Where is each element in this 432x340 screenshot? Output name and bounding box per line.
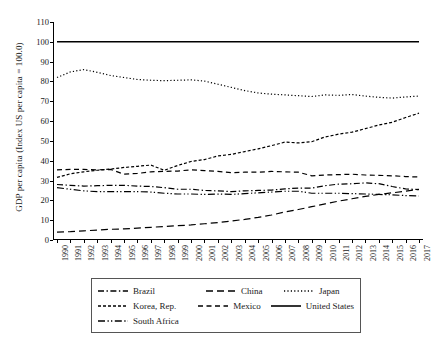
legend-label: South Africa	[133, 316, 179, 326]
x-tick-label: 2004	[248, 245, 257, 261]
x-tick-mark	[325, 240, 326, 243]
legend-label: Japan	[319, 286, 340, 296]
x-tick-label: 2003	[235, 245, 244, 261]
series-lines	[53, 22, 423, 240]
x-tick-mark	[272, 240, 273, 243]
x-tick-label: 1993	[101, 245, 110, 261]
legend-label: Mexico	[233, 301, 261, 311]
x-tick-label: 2013	[369, 245, 378, 261]
legend-swatch	[284, 287, 314, 295]
legend-item-united-states[interactable]: United States	[271, 301, 354, 311]
x-tick-label: 1998	[168, 245, 177, 261]
legend-row: South Africa	[98, 313, 354, 328]
x-tick-label: 1992	[87, 245, 96, 261]
x-tick-label: 2016	[409, 245, 418, 261]
x-tick-mark	[84, 240, 85, 243]
x-tick-mark	[191, 240, 192, 243]
x-tick-mark	[137, 240, 138, 243]
legend-item-south-africa[interactable]: South Africa	[98, 316, 206, 326]
y-tick-mark	[50, 240, 53, 241]
series-line	[57, 188, 419, 196]
x-tick-label: 1997	[154, 245, 163, 261]
x-tick-mark	[204, 240, 205, 243]
legend-label: Korea, Rep.	[133, 301, 176, 311]
x-tick-label: 2017	[423, 245, 432, 261]
plot-area: 0102030405060708090100110 19901991199219…	[53, 22, 423, 240]
x-tick-label: 1999	[181, 245, 190, 261]
x-tick-mark	[406, 240, 407, 243]
legend-item-mexico[interactable]: Mexico	[198, 301, 270, 311]
x-tick-label: 1996	[141, 245, 150, 261]
x-tick-label: 2011	[342, 245, 351, 261]
x-tick-mark	[231, 240, 232, 243]
legend-row: Korea, Rep.MexicoUnited States	[98, 298, 354, 313]
y-axis-title: GDP per capita (Index US per capita = 10…	[14, 22, 24, 232]
x-tick-label: 2012	[355, 245, 364, 261]
x-tick-mark	[392, 240, 393, 243]
x-tick-label: 2008	[302, 245, 311, 261]
x-tick-mark	[285, 240, 286, 243]
x-tick-label: 1995	[128, 245, 137, 261]
x-tick-mark	[312, 240, 313, 243]
legend-row: BrazilChinaJapan	[98, 283, 354, 298]
legend-swatch	[98, 302, 128, 310]
x-tick-label: 2002	[221, 245, 230, 261]
legend-swatch	[206, 287, 236, 295]
x-tick-label: 2014	[382, 245, 391, 261]
legend-item-japan[interactable]: Japan	[284, 286, 340, 296]
x-tick-mark	[218, 240, 219, 243]
legend-item-brazil[interactable]: Brazil	[98, 286, 206, 296]
x-tick-label: 2007	[288, 245, 297, 261]
x-tick-label: 2001	[208, 245, 217, 261]
legend-swatch	[98, 317, 128, 325]
x-tick-mark	[258, 240, 259, 243]
legend-item-china[interactable]: China	[206, 286, 284, 296]
series-line	[57, 113, 419, 177]
x-tick-label: 2009	[315, 245, 324, 261]
legend-label: China	[241, 286, 263, 296]
x-tick-mark	[245, 240, 246, 243]
x-tick-mark	[164, 240, 165, 243]
x-tick-mark	[151, 240, 152, 243]
x-tick-label: 1994	[114, 245, 123, 261]
x-tick-mark	[419, 240, 420, 243]
series-line	[57, 183, 419, 192]
x-tick-mark	[352, 240, 353, 243]
series-line	[57, 70, 419, 99]
x-tick-mark	[111, 240, 112, 243]
x-tick-mark	[365, 240, 366, 243]
legend-swatch	[198, 302, 228, 310]
series-line	[57, 169, 419, 177]
x-tick-label: 2005	[262, 245, 271, 261]
legend-swatch	[271, 302, 301, 310]
x-tick-mark	[70, 240, 71, 243]
series-line	[57, 189, 419, 232]
legend-label: Brazil	[133, 286, 155, 296]
x-tick-label: 2000	[195, 245, 204, 261]
legend-label: United States	[306, 301, 354, 311]
x-tick-label: 1990	[61, 245, 70, 261]
legend-swatch	[98, 287, 128, 295]
x-tick-mark	[57, 240, 58, 243]
x-tick-mark	[97, 240, 98, 243]
x-tick-mark	[379, 240, 380, 243]
chart-legend: BrazilChinaJapanKorea, Rep.MexicoUnited …	[91, 278, 361, 333]
x-tick-mark	[339, 240, 340, 243]
x-tick-label: 2010	[329, 245, 338, 261]
x-tick-mark	[298, 240, 299, 243]
x-tick-label: 1991	[74, 245, 83, 261]
x-tick-mark	[124, 240, 125, 243]
x-tick-label: 2015	[396, 245, 405, 261]
legend-item-korea-rep[interactable]: Korea, Rep.	[98, 301, 198, 311]
x-tick-mark	[178, 240, 179, 243]
x-tick-label: 2006	[275, 245, 284, 261]
